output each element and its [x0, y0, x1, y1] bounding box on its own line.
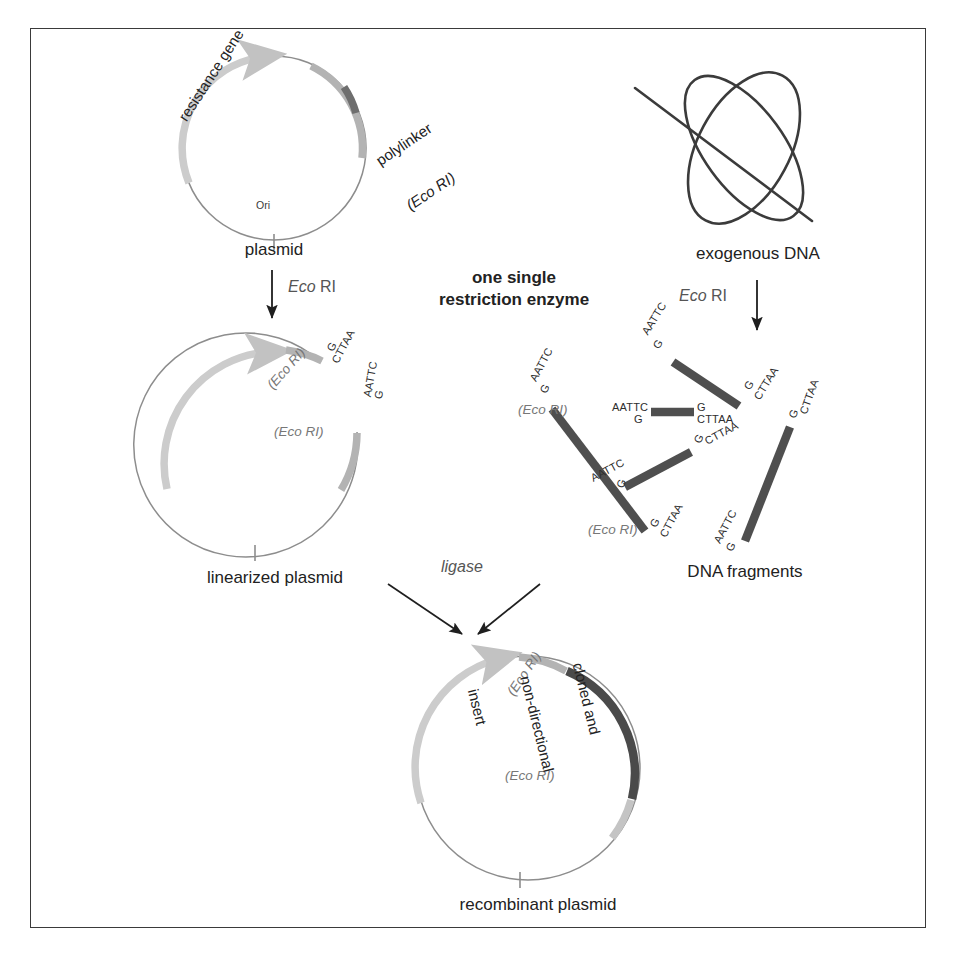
cloned-insert-label-line2: non-directional	[517, 674, 558, 774]
center-text-line2: restriction enzyme	[394, 290, 634, 310]
fragments-ecori-label-upper: (Eco RI)	[518, 402, 568, 418]
polylinker-label: polylinker	[373, 119, 435, 169]
ligase-label: ligase	[441, 558, 483, 576]
ecori-label-exogenous-arrow: Eco RI	[679, 287, 727, 305]
center-text-line1: one single	[404, 268, 624, 288]
fragment-3-left-g: G	[634, 414, 643, 426]
fragment-3-right-g: G	[697, 402, 706, 414]
linearized-plasmid-caption: linearized plasmid	[165, 568, 385, 588]
cloned-insert-label-line1: cloned and	[570, 661, 611, 761]
ori-label: Ori	[256, 199, 270, 211]
fragments-ecori-label-lower: (Eco RI)	[588, 522, 638, 538]
figure-page: resistance gene polylinker (Eco RI) Ori …	[0, 0, 954, 957]
recombinant-plasmid-caption: recombinant plasmid	[418, 895, 658, 915]
ecori-label-plasmid-arrow: Eco RI	[288, 278, 336, 296]
cloned-insert-label-line3: insert	[465, 687, 506, 787]
plasmid-caption: plasmid	[208, 240, 340, 260]
exogenous-dna-caption: exogenous DNA	[663, 244, 853, 264]
polylinker-ecori-label: (Eco RI)	[403, 164, 465, 214]
fragment-3-left-aattc: AATTC	[612, 402, 648, 414]
page-bleed-text	[28, 0, 928, 10]
dna-fragments-caption: DNA fragments	[640, 562, 850, 582]
linearized-ecori-label-bottom: (Eco RI)	[274, 424, 324, 440]
figure-frame	[30, 28, 926, 928]
linearized-sticky-bottom-g: G	[373, 389, 386, 400]
